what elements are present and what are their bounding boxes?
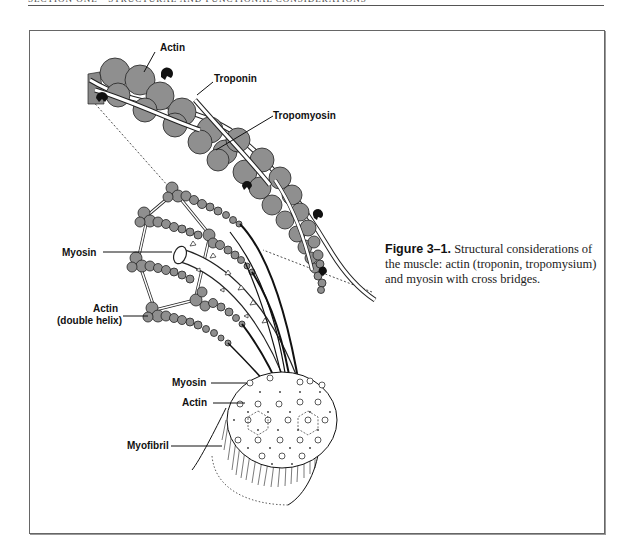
label-actin-top: Actin — [160, 42, 185, 53]
label-double-helix: (double helix) — [57, 315, 122, 326]
figure-number: Figure 3–1. — [385, 242, 451, 256]
label-tropomyosin: Tropomyosin — [273, 110, 336, 121]
leader-line — [197, 82, 213, 95]
label-myosin: Myosin — [62, 247, 96, 258]
label-myofibril: Myofibril — [127, 440, 169, 451]
label-troponin: Troponin — [214, 73, 257, 84]
myofibril-cross-section — [192, 372, 337, 505]
label-actin-cross: Actin — [182, 397, 207, 408]
label-actin-double: Actin — [93, 303, 118, 314]
label-myosin-cross: Myosin — [172, 377, 206, 388]
figure-caption: Figure 3–1. Structural considerations of… — [385, 242, 600, 287]
